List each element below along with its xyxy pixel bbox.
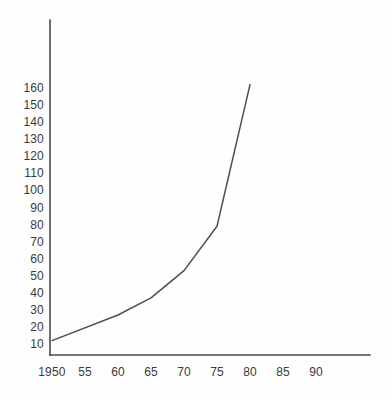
y-tick-label: 30 xyxy=(30,304,44,316)
y-tick-label: 100 xyxy=(23,184,44,196)
y-tick-label: 140 xyxy=(23,116,44,128)
y-tick-label: 70 xyxy=(30,236,44,248)
y-tick-label: 50 xyxy=(30,270,44,282)
y-tick-label: 120 xyxy=(23,150,44,162)
x-tick-label: 85 xyxy=(276,366,290,378)
y-tick-label: 130 xyxy=(23,133,44,145)
x-tick-label: 80 xyxy=(243,366,257,378)
x-tick-label: 55 xyxy=(78,366,92,378)
y-tick-label: 150 xyxy=(23,99,44,111)
x-tick-label: 75 xyxy=(210,366,224,378)
y-tick-label: 40 xyxy=(30,287,44,299)
y-tick-label: 20 xyxy=(30,321,44,333)
data-series-line xyxy=(52,85,250,341)
y-tick-label: 10 xyxy=(30,338,44,350)
x-tick-label: 90 xyxy=(309,366,323,378)
y-tick-label: 160 xyxy=(23,82,44,94)
chart-plot-area xyxy=(0,0,391,399)
y-tick-label: 110 xyxy=(24,167,44,179)
x-tick-label: 1950 xyxy=(38,366,66,378)
x-tick-label: 65 xyxy=(144,366,158,378)
y-tick-label: 60 xyxy=(30,253,44,265)
x-tick-label: 70 xyxy=(177,366,191,378)
y-tick-label: 90 xyxy=(30,202,44,214)
line-chart: 160150140130120110100908070605040302010 … xyxy=(0,0,391,399)
x-tick-label: 60 xyxy=(111,366,125,378)
y-tick-label: 80 xyxy=(30,219,44,231)
